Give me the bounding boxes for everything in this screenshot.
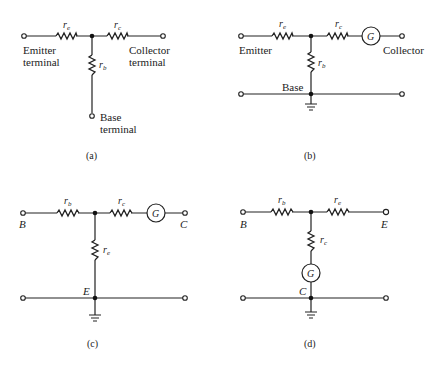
- base-label: Base: [282, 81, 304, 93]
- panel-a: re rc rb Emitter terminal Collector term…: [22, 19, 171, 162]
- rb-label: rb: [99, 59, 107, 72]
- resistor-re-icon: [56, 33, 77, 39]
- collector-label: Collector: [383, 44, 424, 56]
- resistor-re-icon: [272, 33, 293, 39]
- re-label: re: [63, 19, 70, 32]
- collector-label: C: [180, 218, 188, 230]
- base-label: B: [240, 218, 247, 230]
- base-node-icon: [309, 92, 314, 97]
- base-terminal-label: terminal: [100, 123, 137, 135]
- resistor-rb-icon: [271, 209, 293, 215]
- re-label: re: [103, 244, 110, 257]
- rb-label: rb: [64, 195, 72, 208]
- rc-label: rc: [118, 195, 126, 208]
- junction-node-icon: [90, 34, 95, 39]
- emitter-terminal-label: terminal: [23, 56, 60, 68]
- rc-label: rc: [320, 234, 328, 247]
- collector-right-terminal-icon: [384, 296, 389, 301]
- caption-b: (b): [304, 150, 316, 162]
- rb-label: rb: [278, 194, 286, 207]
- resistor-re-icon: [327, 209, 349, 215]
- collector-terminal-icon: [400, 34, 405, 39]
- emitter-terminal-icon: [22, 34, 27, 39]
- caption-d: (d): [304, 338, 316, 350]
- rc-label: rc: [335, 18, 343, 31]
- collector-terminal-icon: [183, 211, 188, 216]
- re-label: re: [279, 18, 286, 31]
- generator-label: G: [152, 208, 159, 219]
- base-label: B: [19, 218, 26, 230]
- resistor-rc-icon: [110, 210, 132, 216]
- panel-c: G rb rc re B C E (c): [19, 195, 188, 350]
- collector-terminal-label: terminal: [129, 56, 166, 68]
- collector-left-terminal-icon: [241, 296, 246, 301]
- resistor-rb-icon: [308, 52, 314, 72]
- rc-label: rc: [114, 19, 122, 32]
- emitter-node-icon: [93, 296, 98, 301]
- base-terminal-icon: [21, 211, 26, 216]
- base-label: Base: [100, 111, 122, 123]
- collector-label: C: [299, 285, 307, 297]
- resistor-rc-icon: [327, 33, 348, 39]
- resistor-rc-icon: [107, 33, 128, 39]
- junction-node-icon: [93, 211, 98, 216]
- collector-label: Collector: [129, 44, 170, 56]
- emitter-label: Emitter: [23, 44, 56, 56]
- panel-b: G re rc rb Emitter Collector Base (b): [239, 18, 425, 162]
- collector-terminal-icon: [161, 34, 166, 39]
- emitter-label: E: [380, 218, 388, 230]
- base-right-terminal-icon: [400, 92, 405, 97]
- ground-icon: [305, 94, 317, 110]
- emitter-label: E: [82, 285, 90, 297]
- rb-label: rb: [318, 57, 326, 70]
- base-terminal-icon: [90, 114, 95, 119]
- circuit-diagrams: re rc rb Emitter terminal Collector term…: [0, 0, 445, 366]
- junction-node-icon: [309, 210, 314, 215]
- base-terminal-icon: [241, 210, 246, 215]
- emitter-left-terminal-icon: [21, 296, 26, 301]
- panel-d: G rb re rc B E C (d): [240, 194, 389, 350]
- ground-icon: [305, 298, 317, 318]
- ground-icon: [89, 298, 101, 321]
- emitter-label: Emitter: [239, 44, 272, 56]
- emitter-terminal-icon: [239, 34, 244, 39]
- junction-node-icon: [309, 34, 314, 39]
- generator-label: G: [367, 31, 374, 42]
- resistor-rb-icon: [57, 210, 79, 216]
- emitter-terminal-icon: [383, 209, 388, 214]
- re-label: re: [334, 194, 341, 207]
- base-left-terminal-icon: [239, 92, 244, 97]
- collector-node-icon: [309, 296, 314, 301]
- resistor-rc-icon: [308, 231, 314, 251]
- caption-a: (a): [86, 150, 97, 162]
- emitter-right-terminal-icon: [183, 296, 188, 301]
- transistor-equivalent-circuits-figure: re rc rb Emitter terminal Collector term…: [0, 0, 445, 366]
- resistor-re-icon: [92, 240, 98, 260]
- generator-label: G: [307, 268, 314, 279]
- resistor-rb-icon: [89, 55, 95, 75]
- caption-c: (c): [87, 338, 98, 350]
